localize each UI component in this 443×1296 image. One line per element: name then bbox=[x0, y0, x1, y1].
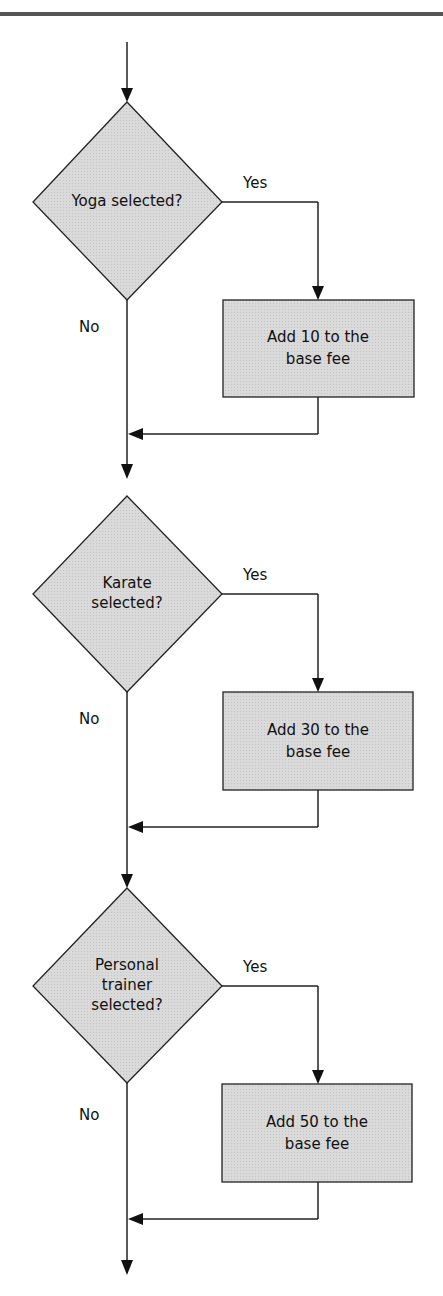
decision-text-line: selected? bbox=[52, 995, 202, 1015]
process-text-line: base fee bbox=[222, 1133, 412, 1155]
yes-label: Yes bbox=[243, 174, 267, 193]
process-label-add-50: Add 50 to the base fee bbox=[222, 1111, 412, 1155]
decision-text-line: Personal bbox=[52, 955, 202, 975]
no-label: No bbox=[79, 318, 99, 337]
process-text-line: Add 50 to the bbox=[222, 1111, 412, 1133]
process-label-add-30: Add 30 to the base fee bbox=[223, 719, 413, 763]
process-text-line: Add 30 to the bbox=[223, 719, 413, 741]
decision-label-yoga: Yoga selected? bbox=[52, 191, 202, 211]
decision-text-line: Karate bbox=[52, 573, 202, 593]
decision-label-karate: Karate selected? bbox=[52, 573, 202, 613]
decision-text-line: trainer bbox=[52, 975, 202, 995]
process-text-line: base fee bbox=[223, 348, 413, 370]
process-text-line: base fee bbox=[223, 741, 413, 763]
process-text-line: Add 10 to the bbox=[223, 326, 413, 348]
no-label: No bbox=[79, 1106, 99, 1125]
decision-text-line: selected? bbox=[52, 593, 202, 613]
decision-label-personal-trainer: Personal trainer selected? bbox=[52, 955, 202, 1015]
no-label: No bbox=[79, 710, 99, 729]
yes-label: Yes bbox=[243, 566, 267, 585]
yes-label: Yes bbox=[243, 958, 267, 977]
decision-text-line: Yoga selected? bbox=[52, 191, 202, 211]
process-label-add-10: Add 10 to the base fee bbox=[223, 326, 413, 370]
